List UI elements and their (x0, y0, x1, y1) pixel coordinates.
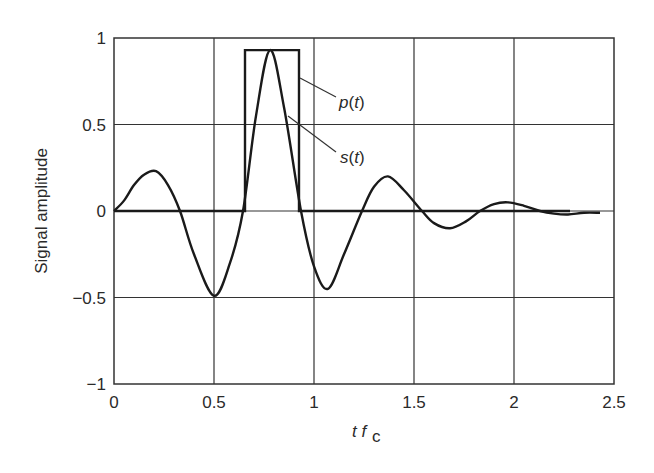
y-tick-label: 0 (97, 202, 106, 221)
series-s-t (114, 50, 600, 296)
x-tick-label: 1.5 (402, 393, 426, 412)
x-tick-labels: 00.511.522.5 (109, 393, 626, 412)
x-tick-label: 2.5 (602, 393, 626, 412)
x-tick-label: 1 (309, 393, 318, 412)
chart: 00.511.522.5 10.50−0.5−1 p(t)s(t) Signal… (0, 0, 654, 473)
y-tick-label: −1 (87, 375, 106, 394)
y-tick-label: 0.5 (82, 116, 106, 135)
p-t-leader-line (300, 78, 336, 97)
s-t-leader-line (288, 116, 336, 152)
y-tick-label: −0.5 (72, 289, 106, 308)
x-tick-label: 0.5 (202, 393, 226, 412)
y-tick-labels: 10.50−0.5−1 (72, 29, 106, 394)
svg-text:t f: t f (352, 422, 368, 441)
x-tick-label: 0 (109, 393, 118, 412)
s-t-label: s(t) (340, 148, 365, 167)
x-tick-label: 2 (509, 393, 518, 412)
p-t-label: p(t) (338, 93, 365, 112)
y-axis-label: Signal amplitude (32, 148, 51, 274)
series-layer (114, 50, 600, 296)
y-tick-label: 1 (97, 29, 106, 48)
svg-text:c: c (372, 427, 381, 446)
x-axis-label: t f c (352, 422, 381, 446)
series-p-t (114, 50, 570, 211)
